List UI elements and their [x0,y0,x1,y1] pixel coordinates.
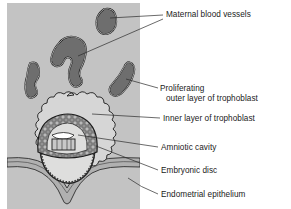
embryology-diagram: Maternal blood vessels Proliferating out… [0,0,291,209]
label-inner-layer-of-trophoblast: Inner layer of trophoblast [163,114,256,123]
label-amniotic-cavity: Amniotic cavity [161,143,217,152]
embryonic-disc-shape [52,139,75,150]
label-maternal-blood-vessels: Maternal blood vessels [166,10,251,19]
label-endometrial-epithelium: Endometrial epithelium [161,190,246,199]
figure-container: Maternal blood vessels Proliferating out… [0,0,291,209]
label-proliferating: Proliferating [160,84,205,93]
amniotic-cavity-shape [52,133,74,140]
label-embryonic-disc: Embryonic disc [161,166,217,175]
maternal-vessel-1 [96,9,116,35]
label-outer-layer-of-trophoblast: outer layer of trophoblast [166,94,259,103]
